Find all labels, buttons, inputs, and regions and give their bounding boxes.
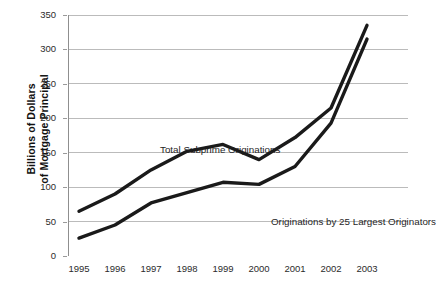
plot-area: Total Subprime Originations Originations…: [68, 15, 408, 256]
series-line-2: [79, 39, 367, 238]
series-lines: [79, 25, 367, 238]
series-label-25-largest: Originations by 25 Largest Originators: [271, 216, 436, 228]
series-label-total-subprime: Total Subprime Originations: [160, 144, 280, 156]
x-axis-tick-label: 2003: [345, 263, 389, 274]
